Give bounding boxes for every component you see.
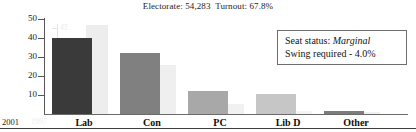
y-tick-label-10: 10 — [28, 90, 37, 99]
y-tick-label-30: 30 — [28, 52, 37, 61]
y-tick-label-50: 50 — [28, 14, 37, 23]
year-label-current: 2001 — [2, 117, 19, 127]
seat-status-label: Seat status: — [285, 35, 330, 46]
turnout-value: 67.8% — [249, 1, 273, 11]
footer-divider — [0, 128, 416, 129]
y-tick-label-40: 40 — [28, 33, 37, 42]
election-results-chart: Electorate: 54,283 Turnout: 67.8% 50 40 … — [0, 0, 416, 132]
y-tick-label-20: 20 — [28, 71, 37, 80]
bar-current-pc — [188, 91, 228, 114]
seat-status-row: Seat status: Marginal — [285, 34, 401, 47]
year-label-previous: 1997 — [31, 117, 47, 126]
bar-current-libd — [256, 94, 296, 114]
swing-required-row: Swing required - 4.0% — [285, 47, 401, 60]
seat-info-box: Seat status: Marginal Swing required - 4… — [277, 30, 407, 65]
electorate-value: 54,283 — [185, 1, 210, 11]
electorate-label: Electorate: — [143, 1, 183, 11]
x-category-label-other: Other — [324, 117, 388, 128]
x-axis-baseline — [44, 114, 408, 115]
seat-status-value: Marginal — [333, 35, 370, 46]
x-category-label-pc: PC — [188, 117, 252, 128]
x-category-label-libd: Lib D — [256, 117, 320, 128]
x-category-label-con: Con — [120, 117, 184, 128]
x-category-label-lab: Lab — [52, 117, 116, 128]
bar-current-other — [324, 111, 364, 114]
chart-subtitle: Electorate: 54,283 Turnout: 67.8% — [0, 1, 416, 11]
bar-current-con — [120, 53, 160, 114]
bar-current-lab — [52, 38, 92, 114]
turnout-label: Turnout: — [215, 1, 247, 11]
